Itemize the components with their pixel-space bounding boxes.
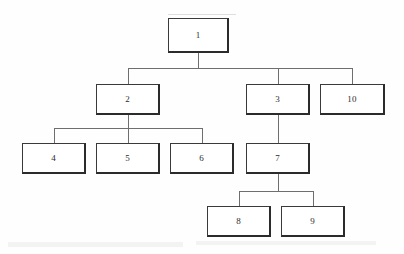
edge-bus-to-node-3 xyxy=(278,68,279,84)
edge-root-drop xyxy=(198,53,199,68)
tree-node-3-label: 3 xyxy=(275,95,280,104)
tree-node-7[interactable]: 7 xyxy=(246,143,310,174)
diagram-canvas: 1 2 3 10 4 5 6 7 8 9 xyxy=(0,0,404,254)
tree-node-8[interactable]: 8 xyxy=(207,206,271,237)
tree-node-9-label: 9 xyxy=(310,217,315,226)
tree-node-8-label: 8 xyxy=(236,217,241,226)
edge-node-3-to-node-7 xyxy=(278,115,279,143)
tree-node-1[interactable]: 1 xyxy=(168,18,229,53)
edge-bus-to-node-2 xyxy=(128,68,129,84)
edge-bus-to-node-9 xyxy=(313,191,314,206)
scan-artifact-top xyxy=(168,14,236,15)
tree-node-1-label: 1 xyxy=(196,31,201,40)
tree-node-7-label: 7 xyxy=(275,154,280,163)
tree-node-3[interactable]: 3 xyxy=(246,84,310,115)
edge-node-7-drop xyxy=(278,174,279,191)
edge-bus-to-node-10 xyxy=(352,68,353,84)
edge-node-2-drop xyxy=(128,115,129,128)
tree-node-4[interactable]: 4 xyxy=(22,143,86,174)
tree-node-5-label: 5 xyxy=(125,154,130,163)
tree-node-10[interactable]: 10 xyxy=(320,84,385,115)
tree-node-9[interactable]: 9 xyxy=(281,206,345,237)
edge-root-bus xyxy=(128,68,353,69)
tree-node-5[interactable]: 5 xyxy=(96,143,160,174)
edge-node-7-bus xyxy=(239,191,314,192)
tree-node-2[interactable]: 2 xyxy=(96,84,160,115)
edge-bus-to-node-5 xyxy=(128,128,129,143)
tree-node-10-label: 10 xyxy=(347,95,356,104)
tree-node-6[interactable]: 6 xyxy=(170,143,234,174)
edge-bus-to-node-6 xyxy=(202,128,203,143)
scan-artifact-bottom-left xyxy=(8,242,183,247)
edge-bus-to-node-4 xyxy=(54,128,55,143)
tree-node-2-label: 2 xyxy=(125,95,130,104)
tree-node-4-label: 4 xyxy=(51,154,56,163)
scan-artifact-bottom-right xyxy=(196,241,376,245)
tree-node-6-label: 6 xyxy=(199,154,204,163)
edge-bus-to-node-8 xyxy=(239,191,240,206)
edge-node-2-bus xyxy=(54,128,202,129)
